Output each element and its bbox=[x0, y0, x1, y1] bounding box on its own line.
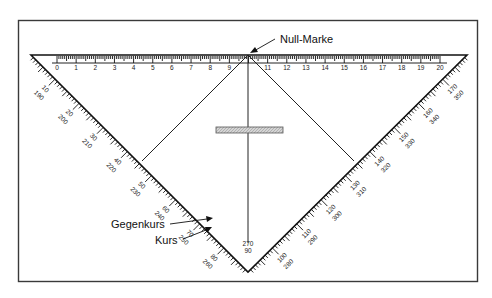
ruler-number: 3 bbox=[113, 64, 117, 71]
ruler-number: 11 bbox=[264, 64, 271, 71]
gegenkurs-label: Gegenkurs bbox=[111, 218, 165, 230]
inner-line-left bbox=[142, 55, 248, 161]
hatched-bar bbox=[216, 127, 283, 133]
ruler-number: 8 bbox=[208, 64, 212, 71]
ruler-number: 7 bbox=[189, 64, 193, 71]
ruler-number: 18 bbox=[398, 64, 406, 71]
ruler-number: 9 bbox=[228, 64, 232, 71]
gegenkurs-arrowhead-icon bbox=[206, 216, 213, 222]
ruler-number: 6 bbox=[170, 64, 174, 71]
ruler-number: 2 bbox=[93, 64, 97, 71]
ruler-number: 17 bbox=[379, 64, 387, 71]
ruler-numbers: 012345678911121314151617181920 bbox=[55, 64, 444, 71]
null-marke-label: Null-Marke bbox=[280, 33, 333, 45]
apex-label-270: 270 bbox=[243, 240, 254, 247]
null-marke-arrowhead-icon bbox=[250, 47, 258, 53]
ruler-number: 20 bbox=[436, 64, 444, 71]
ruler-number: 15 bbox=[341, 64, 349, 71]
ruler-number: 5 bbox=[151, 64, 155, 71]
navigation-triangle-diagram: 012345678911121314151617181920 101902020… bbox=[0, 0, 492, 298]
gegenkurs-arrow bbox=[170, 219, 207, 224]
null-marke-arrow bbox=[254, 39, 275, 51]
ruler-number: 19 bbox=[417, 64, 425, 71]
apex-label-90: 90 bbox=[244, 247, 252, 254]
ruler-number: 13 bbox=[302, 64, 310, 71]
ruler-number: 14 bbox=[321, 64, 329, 71]
inner-line-right bbox=[248, 55, 354, 161]
ruler-number: 4 bbox=[132, 64, 136, 71]
ruler-number: 1 bbox=[74, 64, 78, 71]
ruler-number: 0 bbox=[55, 64, 59, 71]
ruler-number: 16 bbox=[360, 64, 368, 71]
kurs-label: Kurs bbox=[155, 234, 178, 246]
ruler-number: 12 bbox=[283, 64, 291, 71]
